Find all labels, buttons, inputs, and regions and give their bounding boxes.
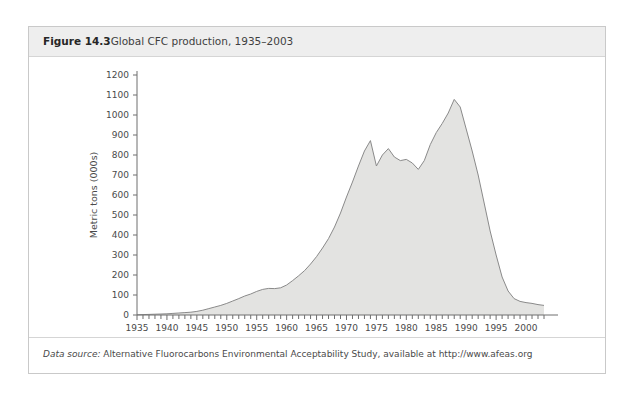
- figure-title: Global CFC production, 1935–2003: [111, 35, 294, 47]
- x-tick-label: 1960: [275, 323, 298, 333]
- x-tick-label: 1975: [365, 323, 388, 333]
- y-tick-label: 200: [112, 270, 129, 280]
- chart-area: 0100200300400500600700800900100011001200…: [29, 57, 605, 337]
- y-tick-label: 0: [123, 310, 129, 320]
- y-tick-label: 1200: [106, 70, 129, 80]
- y-tick-label: 900: [112, 130, 129, 140]
- y-tick-label: 700: [112, 170, 129, 180]
- y-axis-title: Metric tons (000s): [88, 152, 99, 239]
- y-tick-label: 1100: [106, 90, 129, 100]
- y-tick-label: 300: [112, 250, 129, 260]
- x-tick-label: 2000: [515, 323, 538, 333]
- x-tick-label: 1955: [245, 323, 268, 333]
- x-tick-label: 1985: [425, 323, 448, 333]
- y-tick-label: 600: [112, 190, 129, 200]
- y-tick-label: 800: [112, 150, 129, 160]
- y-tick-label: 400: [112, 230, 129, 240]
- x-tick-label: 1970: [335, 323, 358, 333]
- x-tick-label: 1980: [395, 323, 418, 333]
- source-label: Data source:: [43, 349, 100, 359]
- figure-header: Figure 14.3Global CFC production, 1935–2…: [29, 27, 605, 57]
- figure-number: Figure 14.3: [43, 35, 111, 47]
- y-tick-label: 1000: [106, 110, 129, 120]
- y-tick-label: 500: [112, 210, 129, 220]
- x-tick-label: 1935: [126, 323, 149, 333]
- source-text: Alternative Fluorocarbons Environmental …: [100, 349, 532, 359]
- figure-footer: Data source: Alternative Fluorocarbons E…: [29, 337, 605, 373]
- y-tick-label: 100: [112, 290, 129, 300]
- x-tick-label: 1965: [305, 323, 328, 333]
- x-tick-label: 1990: [455, 323, 478, 333]
- x-tick-label: 1950: [215, 323, 238, 333]
- figure-card: Figure 14.3Global CFC production, 1935–2…: [28, 26, 606, 374]
- cfc-production-area-chart: 0100200300400500600700800900100011001200…: [29, 57, 607, 337]
- figure-caption: Figure 14.3Global CFC production, 1935–2…: [43, 35, 293, 47]
- x-tick-label: 1995: [485, 323, 508, 333]
- x-tick-label: 1945: [185, 323, 208, 333]
- x-tick-label: 1940: [155, 323, 178, 333]
- figure-source: Data source: Alternative Fluorocarbons E…: [43, 349, 532, 359]
- data-area-fill: [137, 99, 544, 315]
